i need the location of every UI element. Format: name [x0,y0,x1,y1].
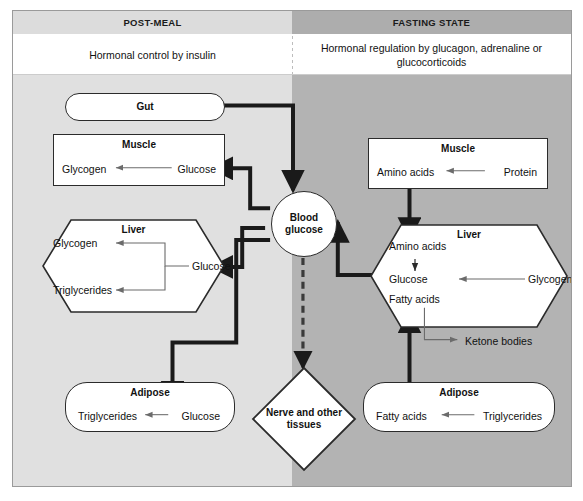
node-adipose-right: Adipose Fatty acids Triglycerides [363,382,555,432]
label-liver-right-glycogen: Glycogen [528,273,572,285]
label-nerve-tissues: Nerve and other tissues [251,407,357,431]
node-liver-right: Liver Amino acids Glucose Glycogen Fatty… [369,223,569,329]
label-liver-right-amino-acids: Amino acids [389,240,446,252]
metabolism-diagram: POST-MEAL FASTING STATE Hormonal control… [12,10,572,487]
node-adipose-left: Adipose Triglycerides Glucose [65,382,235,432]
node-muscle-right: Muscle Amino acids Protein [368,138,548,189]
adipose-left-internal-arrow [66,383,234,431]
node-gut-left: Gut [65,93,225,121]
label-liver-left-glucose: Glucose [192,260,231,272]
muscle-right-internal-arrow [369,139,547,188]
node-blood-glucose: Blood glucose [271,191,337,257]
label-liver-left-triglycerides: Triglycerides [53,284,112,296]
node-muscle-left: Muscle Glycogen Glucose [53,134,225,186]
label-liver-left-glycogen: Glycogen [53,237,97,249]
label-blood-glucose: Blood glucose [272,212,336,236]
muscle-left-internal-arrow [54,135,224,185]
label-liver-right-fatty-acids: Fatty acids [389,293,440,305]
adipose-right-internal-arrow [364,383,554,431]
node-liver-left: Liver Glycogen Triglycerides Glucose [41,218,226,314]
node-liver-left-title: Liver [41,224,226,235]
node-liver-right-title: Liver [369,229,569,240]
node-gut-title: Gut [66,101,224,112]
node-nerve-tissues: Nerve and other tissues [251,366,357,472]
label-liver-right-glucose: Glucose [389,273,428,285]
label-ketone-bodies: Ketone bodies [465,335,532,347]
